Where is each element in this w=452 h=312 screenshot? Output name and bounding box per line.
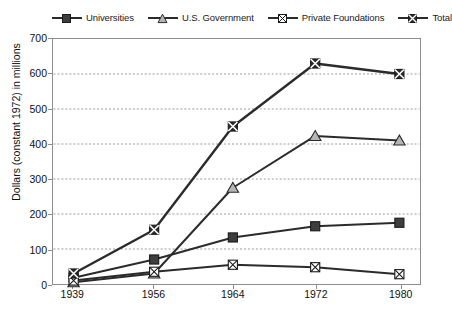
filled-square-marker-icon (311, 222, 320, 231)
y-tick-label: 100 (13, 245, 47, 256)
legend-label-universities: Universities (86, 13, 134, 23)
triangle-marker-icon (227, 182, 239, 192)
x-tick-mark (316, 285, 317, 289)
y-tick-label: 700 (13, 33, 47, 44)
x-tick-label: 1964 (203, 289, 263, 300)
triangle-marker-icon (148, 12, 178, 24)
x-tick-mark (233, 285, 234, 289)
crossed-square-marker-icon (395, 270, 404, 279)
bowtie-marker-icon (398, 12, 428, 24)
legend-item-private-foundations[interactable]: Private Foundations (268, 12, 385, 24)
crossed-square-marker-icon (150, 267, 159, 276)
y-axis-title: Dollars (constant 1972) in millions (10, 22, 22, 222)
crossed-square-marker-icon (268, 12, 298, 24)
chart-legend: Universities U.S. Government Private Fou… (52, 8, 427, 28)
filled-square-marker-icon (395, 218, 404, 227)
legend-item-total[interactable]: Total (398, 12, 452, 24)
plot-area (52, 38, 421, 285)
legend-label-us-government: U.S. Government (182, 13, 254, 23)
bowtie-square-marker-icon (228, 122, 237, 131)
crossed-square-marker-icon (311, 263, 320, 272)
bowtie-square-marker-icon (395, 69, 404, 78)
y-tick-label: 500 (13, 104, 47, 115)
bowtie-square-marker-icon (311, 59, 320, 68)
y-tick-label: 300 (13, 174, 47, 185)
y-tick-label: 400 (13, 139, 47, 150)
y-tick-label: 200 (13, 209, 47, 220)
x-tick-label: 1956 (123, 289, 183, 300)
bowtie-square-marker-icon (69, 269, 78, 278)
bowtie-square-marker-icon (150, 225, 159, 234)
x-tick-label: 1972 (286, 289, 346, 300)
filled-square-marker-icon (228, 233, 237, 242)
series-total (69, 59, 404, 278)
x-tick-label: 1980 (371, 289, 431, 300)
legend-item-universities[interactable]: Universities (52, 12, 134, 24)
legend-label-total: Total (432, 13, 452, 23)
legend-item-us-government[interactable]: U.S. Government (148, 12, 254, 24)
x-tick-label: 1939 (42, 289, 102, 300)
series-private-foundations (69, 260, 404, 285)
y-tick-mark (48, 285, 52, 286)
data-series-layer (53, 39, 420, 284)
series-universities (69, 218, 404, 282)
x-tick-mark (401, 285, 402, 289)
x-tick-mark (153, 285, 154, 289)
crossed-square-marker-icon (228, 260, 237, 269)
legend-label-private-foundations: Private Foundations (302, 13, 385, 23)
y-tick-label: 600 (13, 68, 47, 79)
filled-square-marker-icon (52, 12, 82, 24)
filled-square-marker-icon (150, 255, 159, 264)
